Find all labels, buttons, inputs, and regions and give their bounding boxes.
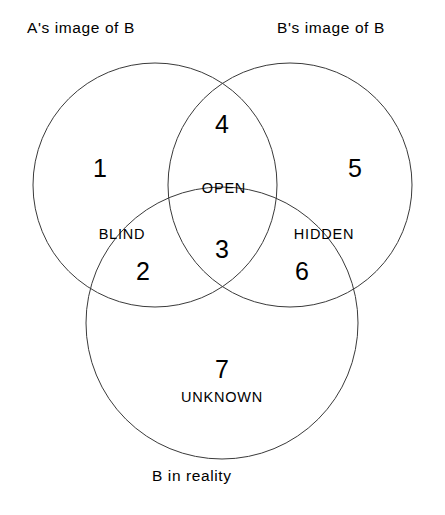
region-number-2: 2 <box>136 259 150 284</box>
region-number-1: 1 <box>93 156 107 181</box>
region-number-6: 6 <box>295 259 309 284</box>
set-label-a-image-of-b: A's image of B <box>27 20 135 36</box>
region-label-blind: BLIND <box>99 227 146 242</box>
set-label-b-in-reality: B in reality <box>152 468 232 484</box>
region-number-7: 7 <box>215 357 229 382</box>
set-label-b-image-of-b: B's image of B <box>277 20 385 36</box>
region-label-open: OPEN <box>202 181 246 196</box>
region-label-hidden: HIDDEN <box>294 227 354 242</box>
region-label-unknown: UNKNOWN <box>181 390 263 405</box>
region-number-3: 3 <box>215 237 229 262</box>
venn-diagram: A's image of B B's image of B B in reali… <box>0 0 445 515</box>
region-number-5: 5 <box>348 156 362 181</box>
region-number-4: 4 <box>215 112 229 137</box>
